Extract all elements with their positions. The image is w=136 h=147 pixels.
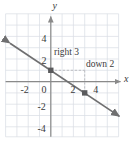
x-tick-label-4: 4: [93, 85, 98, 95]
y-tick-label-neg4: -4: [38, 124, 46, 134]
x-tick-label-2: 2: [71, 85, 76, 95]
x-axis-name: x: [124, 74, 128, 84]
grid-lines: [6, 14, 119, 137]
annotation-down-2: down 2: [86, 60, 114, 70]
y-tick-label-neg2: -2: [38, 102, 46, 112]
origin-label: 0: [42, 85, 47, 95]
point-second: [82, 90, 87, 95]
y-tick-label-4: 4: [42, 34, 47, 44]
x-tick-label-neg2: -2: [21, 85, 29, 95]
coordinate-plane-svg: [0, 0, 136, 147]
annotation-right-3: right 3: [54, 48, 79, 58]
graph-figure: y x -2 2 4 0 4 2 -2 -4 right 3 down 2: [0, 0, 136, 147]
point-y-intercept: [48, 68, 53, 73]
y-axis-name: y: [53, 1, 57, 11]
y-tick-label-2: 2: [42, 56, 47, 66]
